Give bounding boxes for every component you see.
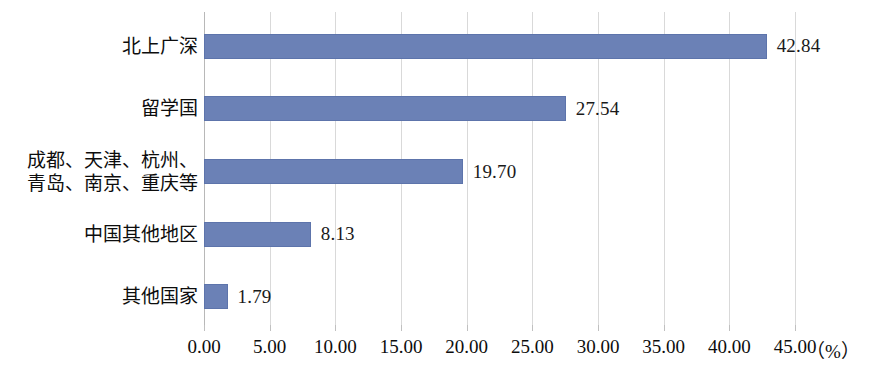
x-tick-label: 20.00: [445, 336, 488, 358]
x-tick-label: 30.00: [577, 336, 620, 358]
y-axis-label-1: 留学国: [4, 97, 204, 120]
y-axis-label-3: 中国其他地区: [4, 223, 204, 246]
tickmark-40.00: [729, 325, 730, 331]
tickmark-35.00: [664, 325, 665, 331]
x-axis-unit-label: （%）: [806, 336, 860, 363]
x-tick-label: 0.00: [187, 336, 220, 358]
x-tick-label: 25.00: [511, 336, 554, 358]
tickmark-20.00: [467, 325, 468, 331]
tickmark-0.00: [204, 325, 205, 331]
x-tick-label: 40.00: [708, 336, 751, 358]
tickmark-10.00: [335, 325, 336, 331]
x-axis-labels: 0.005.0010.0015.0020.0025.0030.0035.0040…: [0, 336, 877, 366]
gridline-45.00: [795, 12, 796, 325]
x-tick-label: 5.00: [253, 336, 286, 358]
horizontal-bar-chart: 北上广深 留学国 成都、天津、杭州、 青岛、南京、重庆等 中国其他地区 其他国家…: [0, 0, 877, 372]
y-axis-label-2: 成都、天津、杭州、 青岛、南京、重庆等: [4, 149, 204, 195]
y-axis-label-4: 其他国家: [4, 285, 204, 308]
y-axis-labels: 北上广深 留学国 成都、天津、杭州、 青岛、南京、重庆等 中国其他地区 其他国家: [0, 12, 204, 325]
tickmark-25.00: [532, 325, 533, 331]
x-tick-label: 10.00: [314, 336, 357, 358]
tickmark-30.00: [598, 325, 599, 331]
x-tick-label: 35.00: [642, 336, 685, 358]
y-axis-label-0: 北上广深: [4, 35, 204, 58]
tickmark-45.00: [795, 325, 796, 331]
tickmark-5.00: [270, 325, 271, 331]
tickmark-15.00: [401, 325, 402, 331]
x-tick-label: 15.00: [380, 336, 423, 358]
x-axis-tickmarks: [204, 12, 795, 332]
